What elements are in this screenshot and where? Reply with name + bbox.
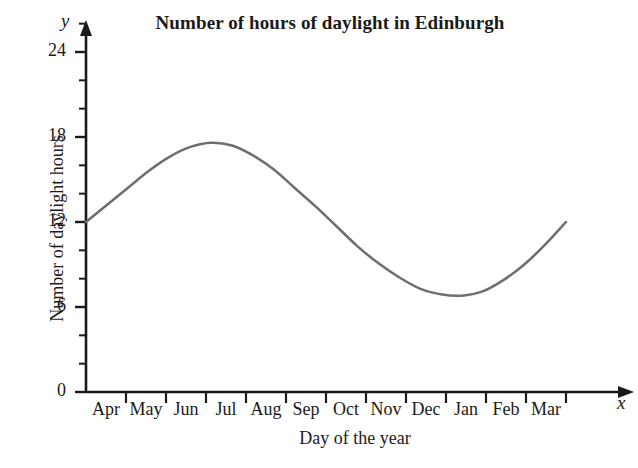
y-tick-label: 0 bbox=[30, 380, 66, 401]
x-axis-arrowhead bbox=[618, 386, 634, 398]
y-tick-label: 24 bbox=[30, 40, 66, 61]
y-tick-marks bbox=[75, 24, 86, 392]
y-axis-arrowhead bbox=[80, 20, 92, 36]
x-tick-label-mar: Mar bbox=[520, 399, 572, 420]
chart-plot-area bbox=[0, 0, 638, 468]
y-tick-label: 18 bbox=[30, 125, 66, 146]
chart-page: Number of hours of daylight in Edinburgh… bbox=[0, 0, 638, 468]
y-tick-label: 12 bbox=[30, 210, 66, 231]
daylight-hours-curve bbox=[86, 143, 566, 296]
y-tick-label: 6 bbox=[30, 295, 66, 316]
axes-group bbox=[80, 20, 634, 398]
